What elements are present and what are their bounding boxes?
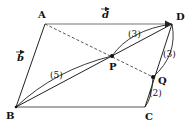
label-D: D	[176, 11, 185, 22]
label-B: B	[6, 110, 14, 121]
ratio-BP: (5)	[50, 70, 63, 80]
vector-d-label: d	[102, 9, 109, 20]
label-P: P	[109, 61, 117, 72]
ratio-DQ: (3)	[163, 49, 176, 59]
parallelogram-diagram: A D B C P Q d b (3) (3) (5) (2)	[0, 0, 196, 129]
label-C: C	[145, 111, 153, 122]
point-Q	[151, 75, 155, 79]
label-Q: Q	[158, 75, 167, 86]
label-A: A	[37, 9, 46, 20]
vector-b-label: b	[17, 52, 24, 63]
point-B	[15, 106, 18, 109]
ratio-PD: (3)	[128, 29, 141, 39]
point-P	[110, 54, 114, 58]
ratio-QC: (2)	[149, 88, 162, 98]
